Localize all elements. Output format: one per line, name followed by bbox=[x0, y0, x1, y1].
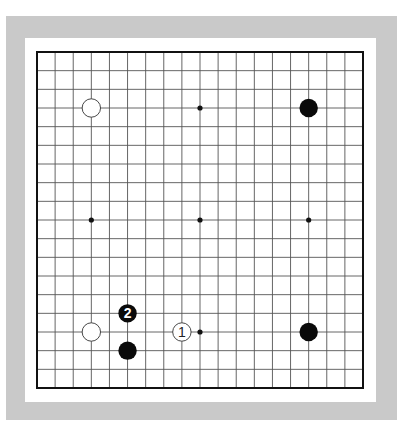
white-stone bbox=[82, 323, 100, 341]
hoshi-point bbox=[197, 217, 202, 222]
white-stone bbox=[82, 99, 100, 117]
hoshi-point bbox=[197, 105, 202, 110]
hoshi-point bbox=[89, 217, 94, 222]
hoshi-point bbox=[197, 329, 202, 334]
hoshi-point bbox=[306, 217, 311, 222]
black-stone bbox=[299, 323, 317, 341]
move-number-label: 1 bbox=[178, 324, 186, 340]
move-number-label: 2 bbox=[124, 305, 132, 321]
black-stone bbox=[118, 341, 136, 359]
go-board: 12 bbox=[0, 0, 412, 431]
black-stone bbox=[299, 99, 317, 117]
